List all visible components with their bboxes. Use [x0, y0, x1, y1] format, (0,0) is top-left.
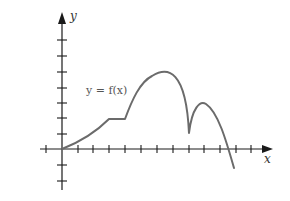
- y-axis-label: y: [69, 9, 77, 23]
- y-axis-arrow-icon: [58, 12, 66, 24]
- x-axis-label: x: [264, 152, 271, 166]
- function-graph: x y y = f(x): [0, 0, 290, 201]
- x-axis: x: [40, 145, 273, 166]
- function-label: y = f(x): [85, 84, 127, 97]
- y-axis: y: [57, 9, 77, 190]
